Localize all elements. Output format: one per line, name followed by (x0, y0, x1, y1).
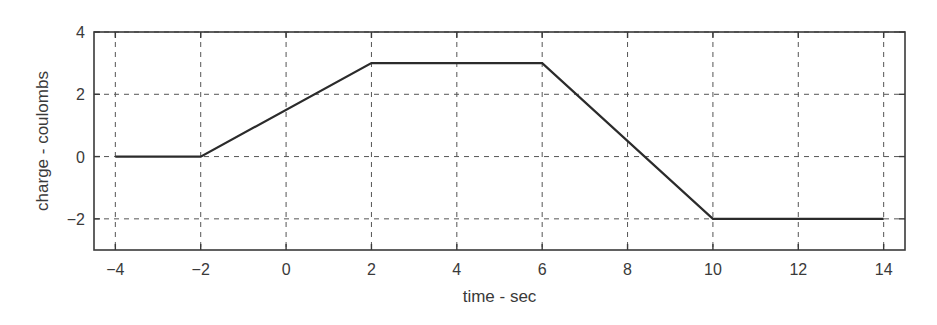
x-tick-labels: −4−202468101214 (106, 261, 892, 278)
x-tick-label: 4 (452, 261, 461, 278)
y-tick-label: 4 (76, 24, 85, 41)
y-tick-label: 2 (76, 86, 85, 103)
x-tick-label: −2 (192, 261, 210, 278)
y-tick-label: 0 (76, 149, 85, 166)
x-tick-label: 6 (538, 261, 547, 278)
grid-lines (94, 32, 905, 250)
x-tick-label: 10 (704, 261, 722, 278)
x-tick-label: 2 (367, 261, 376, 278)
y-tick-label: −2 (67, 211, 85, 228)
plot-area-frame (94, 32, 905, 250)
y-axis-label: charge - coulombs (33, 71, 52, 211)
axis-ticks (94, 32, 905, 250)
x-axis-label: time - sec (463, 287, 537, 306)
charge-series-line (115, 63, 883, 219)
x-tick-label: −4 (106, 261, 124, 278)
x-tick-label: 14 (875, 261, 893, 278)
x-tick-label: 8 (623, 261, 632, 278)
y-tick-labels: −2024 (67, 24, 85, 228)
x-tick-label: 0 (282, 261, 291, 278)
chart-figure: −4−202468101214 −2024 time - sec charge … (0, 0, 937, 325)
x-tick-label: 12 (789, 261, 807, 278)
